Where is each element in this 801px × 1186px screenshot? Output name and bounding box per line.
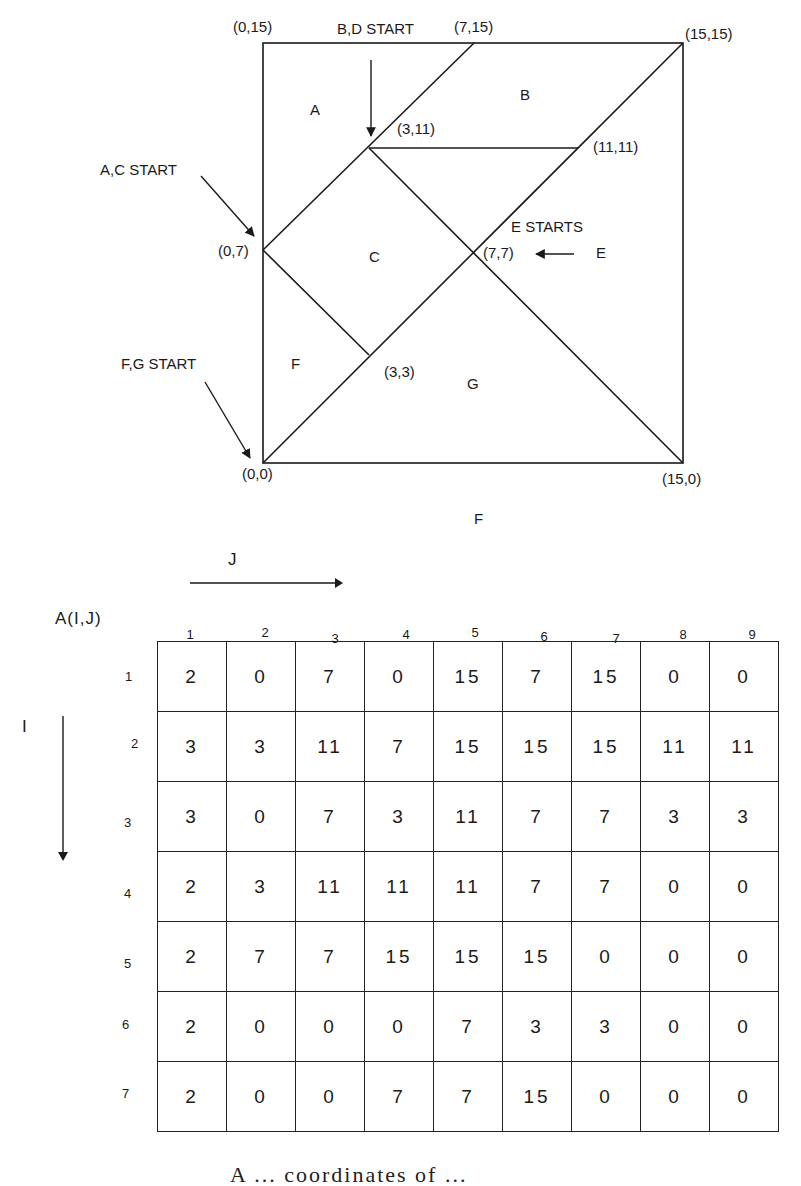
row-header: 1 bbox=[125, 669, 132, 684]
matrix-cell: 3 bbox=[710, 782, 779, 852]
label-15-15: (15,15) bbox=[685, 25, 733, 42]
matrix-cell: 7 bbox=[572, 852, 641, 922]
row-header: 2 bbox=[131, 736, 138, 751]
matrix-cell: 11 bbox=[710, 712, 779, 782]
matrix-cell: 7 bbox=[434, 1062, 503, 1132]
matrix-cell: 3 bbox=[572, 992, 641, 1062]
matrix-cell: 0 bbox=[710, 922, 779, 992]
matrix-table: 2 0 7 0 15 7 15 0 0 3 3 11 7 15 15 15 11… bbox=[157, 641, 779, 1132]
matrix-cell: 7 bbox=[365, 1062, 434, 1132]
label-7-7: (7,7) bbox=[483, 244, 514, 261]
table-row: 3 3 11 7 15 15 15 11 11 bbox=[158, 712, 779, 782]
matrix-cell: 15 bbox=[434, 712, 503, 782]
ac-start-annotation: A,C START bbox=[100, 161, 177, 178]
matrix-cell: 15 bbox=[434, 642, 503, 712]
matrix-cell: 0 bbox=[641, 642, 710, 712]
label-0-15: (0,15) bbox=[233, 18, 272, 35]
matrix-cell: 0 bbox=[296, 992, 365, 1062]
fg-start-arrow bbox=[205, 382, 250, 458]
row-header: 3 bbox=[124, 815, 131, 830]
piece-b-label: B bbox=[520, 86, 530, 103]
label-3-11: (3,11) bbox=[397, 120, 435, 137]
edge-7-15-to-0-7 bbox=[263, 43, 474, 250]
matrix-cell: 2 bbox=[158, 852, 227, 922]
matrix-cell: 11 bbox=[365, 852, 434, 922]
matrix-cell: 7 bbox=[227, 922, 296, 992]
matrix-cell: 0 bbox=[227, 992, 296, 1062]
bd-start-annotation: B,D START bbox=[337, 20, 414, 37]
matrix-cell: 7 bbox=[503, 642, 572, 712]
piece-g-label: G bbox=[467, 375, 479, 392]
table-row: 2 0 0 7 7 15 0 0 0 bbox=[158, 1062, 779, 1132]
matrix-cell: 3 bbox=[227, 712, 296, 782]
col-header: 1 bbox=[180, 627, 200, 642]
matrix-cell: 15 bbox=[503, 922, 572, 992]
piece-a-label: A bbox=[310, 101, 320, 118]
label-7-15: (7,15) bbox=[454, 18, 493, 35]
j-axis-arrow bbox=[185, 576, 345, 590]
matrix-cell: 7 bbox=[503, 782, 572, 852]
matrix-cell: 0 bbox=[227, 1062, 296, 1132]
matrix-cell: 11 bbox=[641, 712, 710, 782]
col-header: 5 bbox=[465, 625, 485, 640]
edge-0-7-to-3-3 bbox=[263, 250, 369, 355]
matrix-cell: 3 bbox=[158, 782, 227, 852]
matrix-cell: 0 bbox=[710, 852, 779, 922]
col-header: 8 bbox=[673, 627, 693, 642]
ac-start-arrow bbox=[201, 176, 254, 236]
i-axis-arrow bbox=[56, 714, 70, 866]
label-0-0: (0,0) bbox=[242, 465, 273, 482]
matrix-cell: 11 bbox=[296, 712, 365, 782]
matrix-cell: 15 bbox=[503, 712, 572, 782]
matrix-cell: 3 bbox=[641, 782, 710, 852]
matrix-cell: 2 bbox=[158, 992, 227, 1062]
table-row: 3 0 7 3 11 7 7 3 3 bbox=[158, 782, 779, 852]
matrix-cell: 0 bbox=[710, 1062, 779, 1132]
matrix-cell: 0 bbox=[365, 992, 434, 1062]
tangram-diagram bbox=[0, 0, 801, 540]
piece-f-label: F bbox=[291, 355, 300, 372]
matrix-cell: 15 bbox=[503, 1062, 572, 1132]
table-row: 2 7 7 15 15 15 0 0 0 bbox=[158, 922, 779, 992]
matrix-cell: 3 bbox=[365, 782, 434, 852]
matrix-cell: 7 bbox=[503, 852, 572, 922]
matrix-cell: 0 bbox=[296, 1062, 365, 1132]
edge-3-11-to-15-0 bbox=[369, 148, 683, 463]
row-header: 5 bbox=[124, 956, 131, 971]
matrix-title: A(I,J) bbox=[55, 609, 102, 629]
matrix-cell: 3 bbox=[503, 992, 572, 1062]
col-header: 9 bbox=[742, 627, 762, 642]
matrix-cell: 0 bbox=[227, 642, 296, 712]
col-header: 2 bbox=[255, 625, 275, 640]
i-axis-label: I bbox=[22, 717, 27, 737]
matrix-cell: 0 bbox=[365, 642, 434, 712]
label-0-7: (0,7) bbox=[218, 242, 249, 259]
matrix-cell: 15 bbox=[572, 642, 641, 712]
col-header: 4 bbox=[396, 627, 416, 642]
matrix-cell: 3 bbox=[227, 852, 296, 922]
table-row: 2 0 7 0 15 7 15 0 0 bbox=[158, 642, 779, 712]
matrix-cell: 0 bbox=[572, 922, 641, 992]
matrix-cell: 11 bbox=[434, 782, 503, 852]
matrix-cell: 3 bbox=[158, 712, 227, 782]
matrix-cell: 15 bbox=[365, 922, 434, 992]
label-15-0: (15,0) bbox=[662, 470, 701, 487]
row-header: 4 bbox=[124, 886, 131, 901]
matrix-cell: 15 bbox=[572, 712, 641, 782]
fg-start-annotation: F,G START bbox=[121, 355, 196, 372]
matrix-cell: 0 bbox=[710, 642, 779, 712]
bottom-f-label: F bbox=[474, 510, 483, 527]
matrix-cell: 0 bbox=[641, 992, 710, 1062]
matrix-cell: 7 bbox=[572, 782, 641, 852]
matrix-cell: 7 bbox=[296, 922, 365, 992]
matrix-cell: 0 bbox=[641, 922, 710, 992]
matrix-cell: 7 bbox=[296, 642, 365, 712]
label-3-3: (3,3) bbox=[384, 363, 415, 380]
matrix-cell: 15 bbox=[434, 922, 503, 992]
j-axis-label: J bbox=[228, 550, 237, 570]
matrix-cell: 7 bbox=[434, 992, 503, 1062]
figure-caption-clipped: A ... coordinates of ... bbox=[230, 1162, 467, 1186]
table-row: 2 3 11 11 11 7 7 0 0 bbox=[158, 852, 779, 922]
matrix-cell: 7 bbox=[296, 782, 365, 852]
matrix-cell: 2 bbox=[158, 922, 227, 992]
